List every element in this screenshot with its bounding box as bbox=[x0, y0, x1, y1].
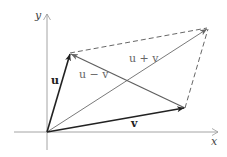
dashed-side-top bbox=[70, 28, 207, 53]
vector-u-minus-v bbox=[71, 54, 185, 108]
label-y: y bbox=[34, 9, 42, 22]
label-u-minus-v: u − v bbox=[79, 68, 109, 81]
label-u: u bbox=[51, 74, 59, 87]
vector-v bbox=[47, 108, 184, 132]
label-v: v bbox=[130, 117, 138, 130]
vector-u bbox=[47, 54, 70, 132]
label-x: x bbox=[211, 135, 218, 148]
label-u-plus-v: u + v bbox=[129, 52, 159, 65]
vector-diagram: y x u v u + v u − v bbox=[0, 0, 227, 157]
